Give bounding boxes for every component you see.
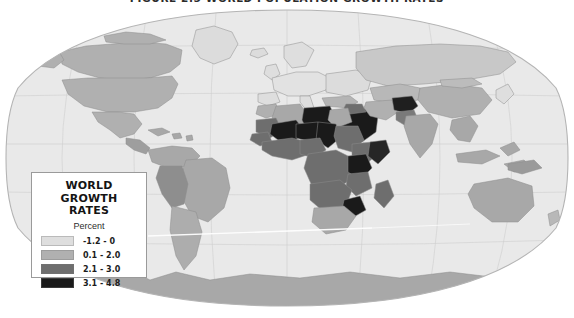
legend-swatch-0 — [41, 236, 74, 246]
legend-label-0: -1.2 - 0 — [83, 237, 115, 246]
legend-row: 2.1 - 3.0 — [41, 263, 146, 276]
legend-label-3: 3.1 - 4.8 — [83, 279, 120, 288]
legend-swatch-1 — [41, 250, 74, 260]
legend-swatch-3 — [41, 278, 74, 288]
legend-title-line-2: RATES — [37, 205, 141, 218]
legend-title-line-1: WORLD GROWTH — [37, 180, 141, 205]
legend-swatch-2 — [41, 264, 74, 274]
legend-label-2: 2.1 - 3.0 — [83, 265, 120, 274]
legend-label-1: 0.1 - 2.0 — [83, 251, 120, 260]
legend-title: WORLD GROWTH RATES — [32, 180, 146, 218]
legend-row: 3.1 - 4.8 — [41, 277, 146, 290]
figure-title: FIGURE 2.5 WORLD POPULATION GROWTH RATES — [0, 0, 574, 4]
legend-subtitle: Percent — [32, 221, 146, 231]
legend-row: -1.2 - 0 — [41, 235, 146, 248]
legend-row: 0.1 - 2.0 — [41, 249, 146, 262]
map-legend: WORLD GROWTH RATES Percent -1.2 - 0 0.1 … — [31, 172, 147, 278]
figure-root: FIGURE 2.5 WORLD POPULATION GROWTH RATES — [0, 0, 574, 318]
